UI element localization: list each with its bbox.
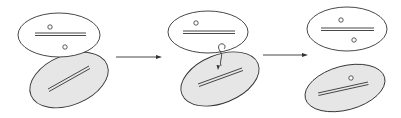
plasmid-icon — [63, 45, 67, 49]
stage-1 — [18, 13, 116, 118]
arrow-2 — [263, 53, 308, 57]
plasmid-icon — [352, 38, 356, 42]
plasmid-icon — [339, 18, 343, 22]
plasmid-icon — [194, 21, 198, 25]
donor-cell — [18, 13, 100, 57]
recipient-cell — [173, 41, 267, 116]
conjugation-diagram — [0, 0, 401, 118]
arrow-1 — [116, 55, 162, 59]
plasmid-icon — [349, 76, 353, 80]
recipient-cell — [300, 56, 391, 118]
plasmid-icon — [48, 25, 52, 29]
donor-cell — [307, 7, 387, 51]
stage-2 — [168, 11, 267, 117]
stage-3 — [300, 7, 391, 118]
donor-cell — [168, 11, 248, 53]
